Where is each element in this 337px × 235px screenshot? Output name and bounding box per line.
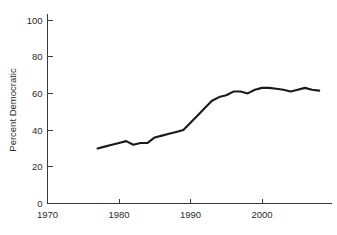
y-tick-label: 40 — [32, 125, 43, 136]
x-tick-label: 1990 — [180, 209, 201, 220]
axes-group — [48, 14, 333, 204]
y-tick-label: 0 — [37, 198, 42, 209]
data-series-group — [98, 88, 320, 149]
y-axis-ticks: 020406080100 — [27, 15, 53, 210]
y-tick-label: 80 — [32, 51, 43, 62]
y-axis-title-group: Percent Democratic — [7, 68, 18, 152]
y-tick-label: 100 — [27, 15, 43, 26]
line-chart-svg: 020406080100 1970198019902000 Percent De… — [0, 0, 337, 235]
y-tick-label: 20 — [32, 161, 43, 172]
series-line-percent-democratic — [98, 88, 320, 149]
x-tick-label: 1980 — [108, 209, 129, 220]
y-tick-label: 60 — [32, 88, 43, 99]
chart-container: 020406080100 1970198019902000 Percent De… — [0, 0, 337, 235]
y-axis-title: Percent Democratic — [7, 68, 18, 152]
x-tick-label: 1970 — [37, 209, 58, 220]
x-tick-label: 2000 — [251, 209, 272, 220]
x-axis-ticks: 1970198019902000 — [37, 199, 273, 220]
